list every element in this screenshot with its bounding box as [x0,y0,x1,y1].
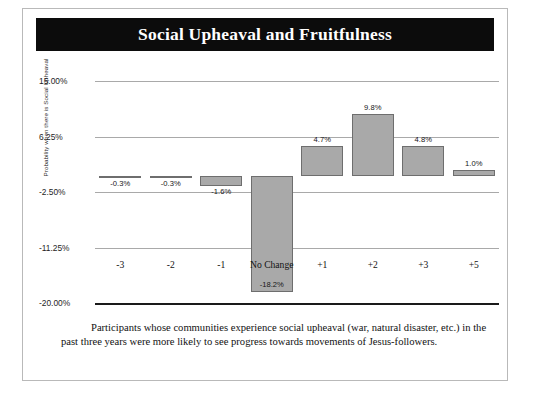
x-axis-tick-label: +1 [297,259,348,270]
x-axis-tick-label: +5 [449,259,500,270]
y-axis-tick-label: 6.25% [39,132,91,142]
figure-container: Social Upheaval and Fruitfulness Probabi… [22,8,508,381]
bar-value-label: 4.7% [297,135,348,144]
title-banner: Social Upheaval and Fruitfulness [36,18,494,51]
bar[interactable] [352,114,394,176]
bar-value-label: -0.3% [95,179,146,188]
y-axis-tick-label: 15.00% [39,76,91,86]
y-axis-title: Probability when there is Social Upheava… [42,48,49,188]
bar-value-label: 1.0% [449,159,500,168]
x-axis-tick-label: -3 [95,259,146,270]
y-axis-tick-label: -2.50% [39,187,91,197]
bar[interactable] [150,176,192,178]
x-axis-tick-labels: -3-2-1No Change+1+2+3+5 [95,259,499,277]
y-axis-tick-label: -11.25% [39,243,91,253]
bar-value-label: -18.2% [247,280,298,289]
bar[interactable] [99,176,141,178]
bar[interactable] [402,146,444,176]
bar[interactable] [200,176,242,186]
bar-value-label: -1.6% [196,187,247,196]
bar-value-label: 4.8% [398,135,449,144]
figure-caption: Participants whose communities experienc… [61,321,489,350]
x-axis-tick-label: -1 [196,259,247,270]
y-axis-tick-label: -20.00% [39,298,91,308]
x-axis-tick-label: No Change [247,259,298,270]
bar-value-label: -0.3% [146,179,197,188]
bar-value-label: 9.8% [348,103,399,112]
bar[interactable] [453,170,495,176]
x-axis-tick-label: +2 [348,259,399,270]
x-axis-tick-label: -2 [146,259,197,270]
bar[interactable] [301,146,343,176]
x-axis-tick-label: +3 [398,259,449,270]
chart-title: Social Upheaval and Fruitfulness [138,24,392,45]
